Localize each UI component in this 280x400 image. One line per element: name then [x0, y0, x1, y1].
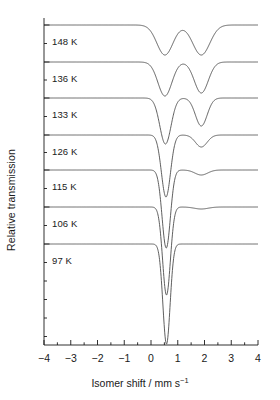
y-axis-label: Relative transmission [0, 0, 22, 400]
temperature-label: 136 K [52, 73, 77, 84]
x-tick-label: 4 [246, 352, 270, 364]
mossbauer-spectra-figure: Relative transmission Isomer shift / mm … [0, 0, 280, 400]
x-axis-label: Isomer shift / mm s−1 [0, 377, 280, 389]
x-tick-label: 3 [219, 352, 243, 364]
temperature-label: 126 K [52, 146, 77, 157]
x-tick-label: −2 [86, 352, 110, 364]
temperature-label: 133 K [52, 109, 77, 120]
x-tick-label: 0 [139, 352, 163, 364]
temperature-label: 97 K [52, 255, 72, 266]
x-tick-label: −1 [112, 352, 136, 364]
x-tick-label: 2 [193, 352, 217, 364]
temperature-label: 148 K [52, 36, 77, 47]
x-tick-label: −4 [32, 352, 56, 364]
spectrum-trace [44, 244, 258, 344]
x-tick-label: 1 [166, 352, 190, 364]
x-tick-label: −3 [59, 352, 83, 364]
temperature-label: 106 K [52, 218, 77, 229]
plot-canvas [0, 0, 280, 400]
temperature-label: 115 K [52, 181, 77, 192]
x-axis-label-text: Isomer shift / mm s [91, 377, 180, 389]
spectrum-trace [44, 98, 258, 144]
x-axis-label-exponent: −1 [180, 376, 189, 385]
